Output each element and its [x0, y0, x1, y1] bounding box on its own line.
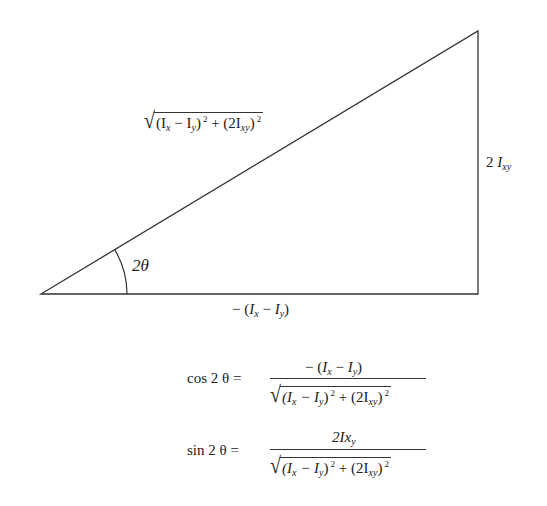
hypotenuse-radicand: (Ix − Iy)2 + (2Ixy)2	[154, 112, 263, 131]
angle-arc	[115, 250, 127, 294]
sin-equation-numerator: 2Ixy	[332, 430, 356, 445]
cos-equation-numerator: − (Ix − Iy)	[305, 360, 362, 375]
angle-label: 2θ	[132, 257, 149, 274]
right-triangle	[41, 31, 478, 294]
cos-fraction-bar	[270, 378, 426, 379]
sin-equation-lhs: sin 2 θ =	[187, 443, 239, 458]
cos-equation-lhs: cos 2 θ =	[187, 371, 241, 386]
triangle-diagram	[0, 0, 547, 506]
adjacent-side-label: − (Ix − Iy)	[232, 302, 289, 317]
sin-fraction-bar	[270, 449, 426, 450]
opposite-side-label: 2 Ixy	[486, 155, 511, 170]
